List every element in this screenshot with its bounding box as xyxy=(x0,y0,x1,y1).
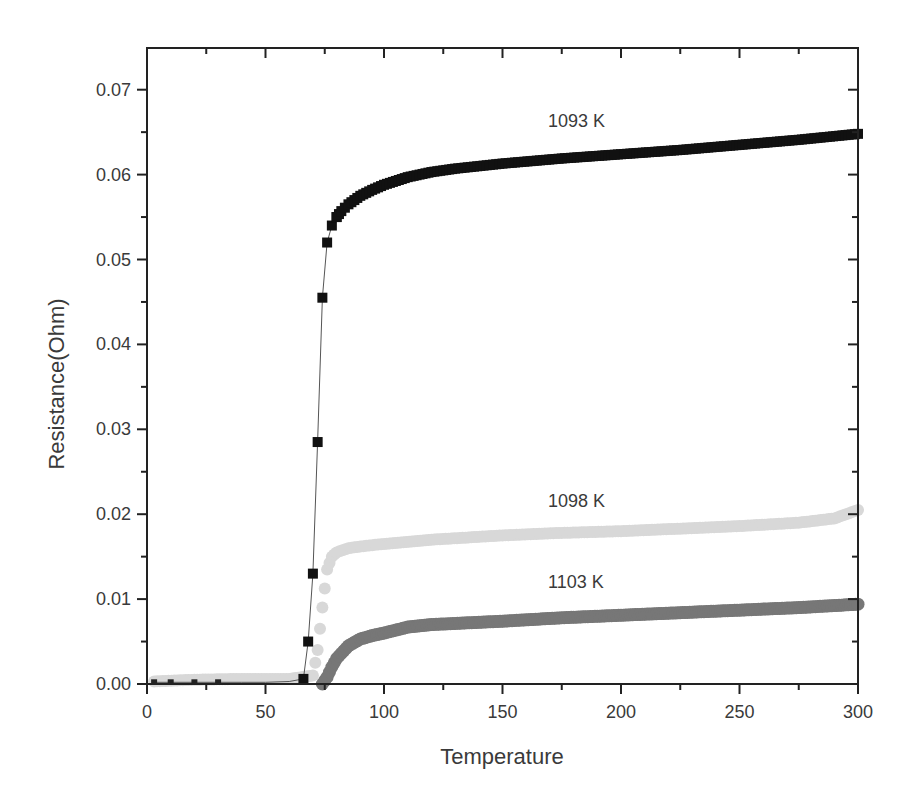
x-tick-label: 100 xyxy=(369,702,399,722)
x-tick-label: 250 xyxy=(724,702,754,722)
annotation-label: 1103 K xyxy=(548,572,604,592)
y-tick-label: 0.07 xyxy=(96,80,131,100)
chart-canvas: 1093 K1098 K1103 K 050100150200250300 0.… xyxy=(0,0,914,812)
curve-annotations: 1093 K1098 K1103 K xyxy=(548,111,605,592)
y-tick-label: 0.01 xyxy=(96,589,131,609)
x-axis-label: Temperature xyxy=(440,744,564,769)
y-tick-label: 0.06 xyxy=(96,165,131,185)
x-tick-label: 200 xyxy=(606,702,636,722)
series-1093-k xyxy=(151,129,863,684)
x-tick-label: 300 xyxy=(843,702,873,722)
annotation-label: 1098 K xyxy=(548,491,605,511)
annotation-label: 1093 K xyxy=(548,111,605,131)
plot-series xyxy=(148,129,864,691)
x-tick-label: 0 xyxy=(142,702,152,722)
resistance-temperature-chart: 1093 K1098 K1103 K 050100150200250300 0.… xyxy=(0,0,914,812)
y-tick-label: 0.05 xyxy=(96,250,131,270)
y-tick-label: 0.04 xyxy=(96,334,131,354)
y-tick-label: 0.03 xyxy=(96,419,131,439)
x-tick-label: 50 xyxy=(255,702,275,722)
y-tick-label: 0.02 xyxy=(96,504,131,524)
series-1098-k xyxy=(148,504,864,687)
y-axis-label: Resistance(Ohm) xyxy=(44,298,69,469)
series-1103-k xyxy=(316,598,865,691)
y-axis: 0.000.010.020.030.040.050.060.07 xyxy=(96,80,858,694)
x-tick-label: 150 xyxy=(487,702,517,722)
y-tick-label: 0.00 xyxy=(96,674,131,694)
